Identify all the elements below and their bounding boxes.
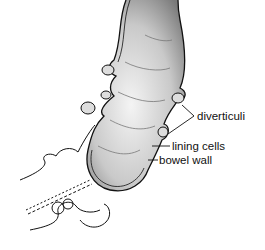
colon-illustration [0,0,265,250]
label-lining-cells: lining cells [172,141,225,153]
label-diverticuli: diverticuli [197,111,245,123]
label-bowel-wall: bowel wall [159,155,212,167]
